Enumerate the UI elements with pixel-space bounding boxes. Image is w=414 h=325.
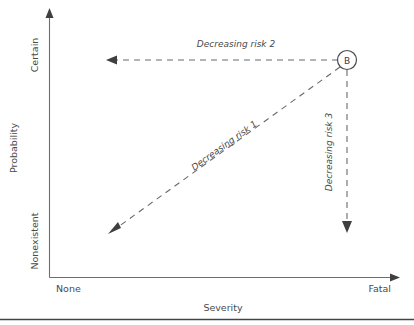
- y-axis-high-label: Certain: [29, 38, 40, 73]
- decreasing-risk-3-arrowhead-icon: [342, 221, 352, 233]
- x-axis-arrowhead-icon: [390, 274, 400, 282]
- decreasing-risk-1-arrowhead-icon: [108, 222, 121, 234]
- y-axis-low-label: Nonexistent: [29, 212, 40, 269]
- decreasing-risk-3-label: Decreasing risk 3: [324, 113, 334, 192]
- risk-reduction-diagram: B Decreasing risk 2 Decreasing risk 1 De…: [0, 0, 414, 325]
- y-axis-title: Probability: [8, 123, 19, 174]
- y-axis-arrowhead-icon: [46, 8, 54, 18]
- node-b-label: B: [344, 56, 350, 66]
- x-axis-title: Severity: [203, 302, 243, 313]
- decreasing-risk-1-label: Decreasing risk 1: [190, 119, 259, 173]
- x-axis-low-label: None: [56, 283, 81, 294]
- decreasing-risk-2-label: Decreasing risk 2: [197, 39, 276, 49]
- x-axis-high-label: Fatal: [368, 283, 391, 294]
- decreasing-risk-2-arrowhead-icon: [106, 56, 117, 65]
